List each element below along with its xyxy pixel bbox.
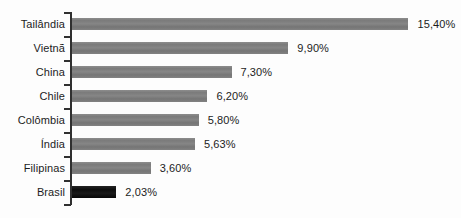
bar-row: Índia5,63% [0,132,461,156]
bar-value-label: 3,60% [160,162,192,174]
bar-row: Colômbia5,80% [0,108,461,132]
axis-tick [64,204,71,206]
bar-row: China7,30% [0,60,461,84]
bar [72,42,288,54]
bar-value-label: 2,03% [125,186,157,198]
plot-area: Tailândia15,40%Vietnã9,90%China7,30%Chil… [0,0,461,218]
category-label: Vietnã [33,42,65,54]
category-label: Chile [39,90,65,102]
bar-value-label: 7,30% [241,66,273,78]
bar [72,162,151,174]
category-label: Tailândia [21,18,65,30]
bar [72,66,232,78]
bar-row: Vietnã9,90% [0,36,461,60]
bar-value-label: 6,20% [216,90,248,102]
bar-row: Filipinas3,60% [0,156,461,180]
category-label: Filipinas [24,162,65,174]
bar [72,186,116,198]
bar-value-label: 15,40% [417,18,455,30]
bar [72,18,408,30]
bar-row: Tailândia15,40% [0,12,461,36]
bar [72,138,195,150]
bar-value-label: 9,90% [297,42,329,54]
category-label: China [36,66,65,78]
bar-value-label: 5,63% [204,138,236,150]
category-label: Índia [41,138,65,150]
category-label: Colômbia [18,114,65,126]
bar [72,90,207,102]
bar-value-label: 5,80% [208,114,240,126]
bar-row: Chile6,20% [0,84,461,108]
bar-chart: Tailândia15,40%Vietnã9,90%China7,30%Chil… [0,0,461,218]
category-label: Brasil [37,186,65,198]
bar-row: Brasil2,03% [0,180,461,204]
bar [72,114,199,126]
